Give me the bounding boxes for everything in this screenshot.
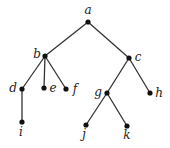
node-label-d: d [9, 81, 17, 95]
node-f [63, 86, 68, 91]
edge-g-k [107, 93, 127, 126]
node-label-c: c [135, 50, 142, 64]
node-e [41, 85, 46, 90]
node-d [19, 86, 24, 91]
tree-diagram: abcdefghijk [0, 0, 170, 148]
node-c [126, 55, 131, 60]
edge-a-c [88, 22, 129, 58]
tree-nodes [19, 19, 152, 128]
node-b [42, 53, 47, 58]
node-label-f: f [72, 82, 80, 96]
tree-edges [22, 22, 150, 126]
edge-b-e [44, 56, 45, 88]
node-a [85, 19, 90, 24]
node-label-b: b [33, 47, 41, 61]
node-label-g: g [94, 85, 102, 99]
node-label-a: a [84, 3, 91, 17]
node-g [104, 90, 109, 95]
node-label-e: e [49, 81, 56, 95]
node-label-k: k [123, 128, 130, 142]
node-label-i: i [19, 125, 23, 139]
node-label-j: j [79, 127, 86, 141]
edge-a-b [45, 22, 88, 56]
node-i [19, 119, 24, 124]
node-h [147, 90, 152, 95]
edge-c-g [107, 58, 129, 93]
node-label-h: h [155, 86, 163, 100]
